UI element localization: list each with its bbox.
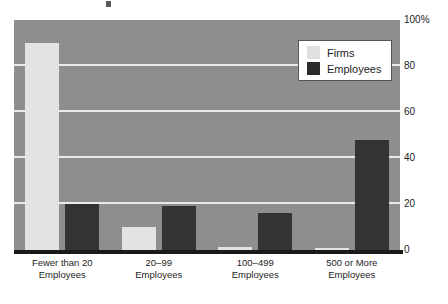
legend-item-employees: Employees — [307, 62, 381, 75]
bar-employees — [355, 140, 389, 250]
y-tick-label-60: 60 — [404, 107, 415, 117]
x-axis-label-line2: Employees — [111, 269, 208, 281]
x-axis-label: 500 or MoreEmployees — [304, 257, 401, 280]
legend-item-firms: Firms — [307, 46, 381, 59]
x-axis-label: 20–99Employees — [111, 257, 208, 280]
x-axis-baseline — [14, 250, 403, 254]
y-tick-label-100: 100% — [404, 15, 430, 25]
legend-label-employees: Employees — [327, 63, 381, 75]
bar-group — [111, 20, 208, 250]
x-axis-label-line2: Employees — [14, 269, 111, 281]
bar-group — [14, 20, 111, 250]
x-axis-category-labels: Fewer than 20Employees20–99Employees100–… — [14, 257, 400, 280]
y-tick-label-40: 40 — [404, 153, 415, 163]
legend-swatch-employees-icon — [307, 62, 320, 75]
y-tick-label-80: 80 — [404, 61, 415, 71]
x-axis-label-line1: 500 or More — [326, 257, 377, 268]
x-axis-label: 100–499Employees — [207, 257, 304, 280]
bar-employees — [65, 204, 99, 250]
bar-employees — [258, 213, 292, 250]
x-axis-label-line1: Fewer than 20 — [32, 257, 93, 268]
y-tick-label-20: 20 — [404, 199, 415, 209]
x-axis-label: Fewer than 20Employees — [14, 257, 111, 280]
x-axis-label-line2: Employees — [207, 269, 304, 281]
x-axis-label-line1: 20–99 — [146, 257, 172, 268]
bar-firms — [122, 227, 156, 250]
x-axis-label-line2: Employees — [304, 269, 401, 281]
legend-label-firms: Firms — [327, 47, 355, 59]
bar-chart-figure: Firms Employees 100%806040200 Fewer than… — [0, 0, 448, 304]
y-axis-tick-labels: 100%806040200 — [404, 0, 448, 304]
chart-legend: Firms Employees — [298, 40, 392, 81]
scan-artifact-mark — [106, 1, 111, 7]
x-axis-label-line1: 100–499 — [237, 257, 274, 268]
bar-employees — [162, 206, 196, 250]
y-tick-label-0: 0 — [404, 245, 410, 255]
legend-swatch-firms-icon — [307, 46, 320, 59]
bar-firms — [25, 43, 59, 250]
bar-group — [207, 20, 304, 250]
